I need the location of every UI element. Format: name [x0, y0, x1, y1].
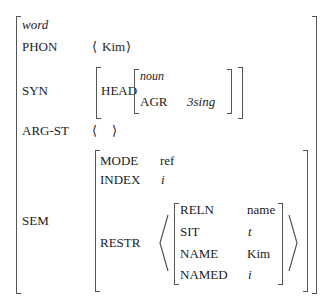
- restr-item-left-bracket: [174, 203, 179, 285]
- index-label: INDEX: [100, 173, 140, 187]
- phon-close-angle: ⟩: [126, 40, 131, 54]
- name-label: NAME: [180, 247, 218, 261]
- sit-value: t: [248, 225, 252, 239]
- agr-label: AGR: [140, 95, 167, 109]
- name-value: Kim: [247, 247, 270, 261]
- arg-st-open-angle: ⟨: [92, 124, 97, 138]
- index-value: i: [161, 173, 165, 187]
- head-right-bracket: [227, 69, 232, 114]
- reln-value: name: [247, 203, 275, 217]
- avm-type: word: [22, 18, 48, 32]
- outer-left-bracket: [16, 16, 21, 294]
- named-label: NAMED: [180, 268, 228, 282]
- arg-st-close-angle: ⟩: [112, 124, 117, 138]
- restr-close-angle: [288, 215, 298, 271]
- mode-label: MODE: [100, 154, 138, 168]
- sem-right-bracket: [303, 150, 308, 292]
- head-type: noun: [140, 69, 164, 83]
- syn-right-bracket: [238, 67, 243, 119]
- named-value: i: [248, 268, 252, 282]
- agr-value: 3sing: [187, 95, 215, 109]
- mode-value: ref: [160, 154, 174, 168]
- head-label: HEAD: [101, 84, 137, 98]
- arg-st-label: ARG-ST: [22, 124, 69, 138]
- reln-label: RELN: [180, 203, 214, 217]
- sit-label: SIT: [180, 225, 200, 239]
- phon-label: PHON: [22, 40, 57, 54]
- restr-label: RESTR: [100, 236, 140, 250]
- restr-item-right-bracket: [278, 203, 283, 285]
- syn-label: SYN: [22, 84, 48, 98]
- restr-open-angle: [159, 215, 169, 271]
- sem-label: SEM: [22, 214, 49, 228]
- outer-right-bracket: [312, 16, 317, 294]
- head-left-bracket: [134, 69, 139, 114]
- phon-open-angle: ⟨: [92, 40, 97, 54]
- phon-value: Kim: [102, 40, 125, 54]
